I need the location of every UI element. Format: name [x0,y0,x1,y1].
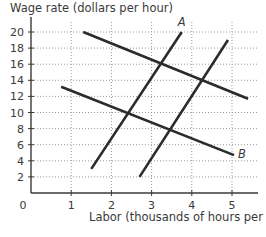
y-tick-label: 10 [10,107,24,120]
y-tick-label: 18 [10,42,24,55]
origin-label: 0 [20,199,27,212]
y-tick-label: 8 [17,123,24,136]
y-tick-label: 14 [10,74,24,87]
y-tick-label: 6 [17,139,24,152]
curve-b [61,87,234,155]
curve-demand-high [83,32,248,99]
x-axis-label: Labor (thousands of hours per day) [89,210,266,224]
y-tick-label: 4 [17,155,24,168]
y-tick-label: 20 [10,26,24,39]
y-tick-label: 16 [10,58,24,71]
chart-plot-area: 2468101214161820123450AB [0,0,266,237]
x-tick-label: 1 [68,199,75,212]
y-tick-label: 12 [10,90,24,103]
curve-label-b: B [238,147,246,161]
y-tick-label: 2 [17,171,24,184]
curve-label-a: A [177,15,186,29]
